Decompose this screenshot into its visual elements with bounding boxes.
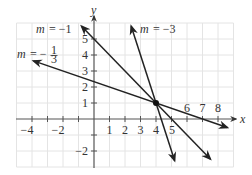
svg-text:m: m [140, 22, 149, 36]
line-slope-minus-one [82, 26, 211, 159]
svg-text:m: m [17, 47, 26, 61]
svg-text:m: m [36, 22, 45, 36]
y-tick-label: 2 [82, 80, 88, 94]
x-tick-label: −2 [52, 123, 65, 137]
label-slope-minus-three: m = −3 [140, 22, 176, 36]
line-slope-minus-three [131, 26, 174, 160]
svg-text:= −1: = −1 [49, 22, 72, 36]
y-tick-label: 4 [82, 48, 88, 62]
x-tick-label: 2 [122, 123, 128, 137]
svg-text:= −3: = −3 [153, 22, 176, 36]
intersection-point [153, 100, 159, 106]
x-tick-label: −4 [21, 123, 34, 137]
svg-text:3: 3 [51, 52, 57, 66]
x-tick-label: 3 [138, 123, 144, 137]
y-tick-label: 1 [82, 96, 88, 110]
y-tick-label: −2 [75, 144, 88, 158]
y-tick-label: 5 [82, 32, 88, 46]
x-tick-label: 1 [107, 123, 113, 137]
svg-text:= −: = − [30, 47, 47, 61]
coordinate-plane: −4 −2 1 2 3 4 5 6 7 8 5 4 3 2 1 −2 x y m… [0, 0, 252, 175]
label-slope-minus-one: m = −1 [36, 22, 72, 36]
y-axis-label: y [90, 3, 97, 17]
y-tick-label: 3 [82, 64, 88, 78]
x-tick-label: 5 [169, 123, 175, 137]
x-tick-label: 8 [215, 101, 221, 115]
x-tick-label: 4 [153, 123, 159, 137]
grid [17, 23, 234, 167]
x-tick-label: 7 [200, 101, 206, 115]
x-axis-label: x [239, 112, 246, 126]
